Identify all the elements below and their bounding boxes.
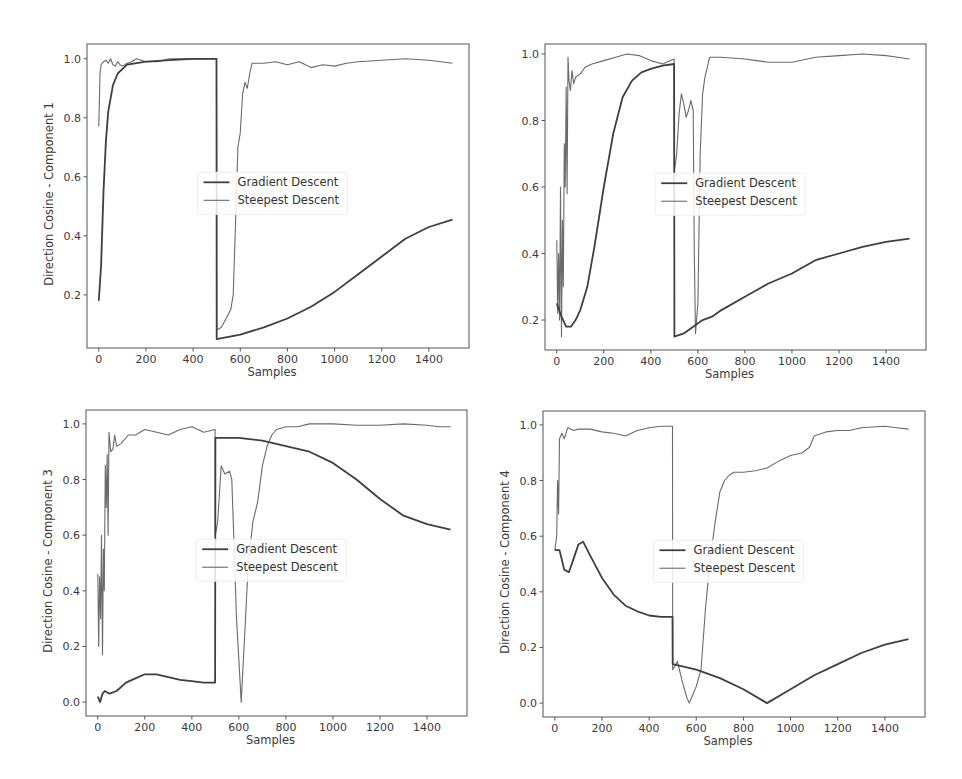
- x-tick-label: 1000: [321, 353, 349, 366]
- y-tick-label: 1.0: [522, 48, 540, 61]
- legend-label: Gradient Descent: [236, 542, 337, 556]
- x-tick-label: 1000: [319, 721, 347, 734]
- x-tick-label: 0: [551, 722, 558, 735]
- y-tick-label: 0.8: [522, 115, 540, 128]
- x-tick-label: 200: [134, 721, 155, 734]
- legend-label: Steepest Descent: [695, 194, 797, 208]
- y-tick-label: 0.6: [64, 171, 82, 184]
- x-axis-label: Samples: [246, 733, 295, 747]
- x-axis-label: Samples: [705, 367, 754, 381]
- x-tick-label: 400: [640, 355, 661, 368]
- x-tick-label: 200: [593, 355, 614, 368]
- y-axis-label: Direction Cosine - Component 3: [41, 469, 55, 652]
- y-tick-label: 1.0: [520, 419, 538, 432]
- x-tick-label: 400: [181, 721, 202, 734]
- x-tick-label: 0: [95, 353, 102, 366]
- legend-label: Steepest Descent: [694, 561, 796, 575]
- legend: Gradient DescentSteepest Descent: [196, 539, 346, 581]
- x-tick-label: 1400: [872, 355, 900, 368]
- y-tick-label: 0.6: [520, 530, 538, 543]
- y-tick-label: 1.0: [64, 53, 82, 66]
- x-tick-label: 1400: [413, 721, 441, 734]
- y-tick-label: 0.2: [520, 641, 538, 654]
- y-tick-label: 0.2: [63, 640, 81, 653]
- x-tick-label: 200: [135, 353, 156, 366]
- x-axis-label: Samples: [247, 365, 296, 379]
- legend: Gradient DescentSteepest Descent: [655, 173, 805, 215]
- x-axis-label: Samples: [703, 734, 752, 748]
- subplot-bottom-right: 02004006008001000120014000.00.20.40.60.8…: [498, 411, 925, 748]
- legend-label: Gradient Descent: [695, 176, 796, 190]
- y-tick-label: 0.8: [64, 112, 82, 125]
- y-tick-label: 0.8: [520, 475, 538, 488]
- x-tick-label: 400: [639, 722, 660, 735]
- y-tick-label: 0.4: [63, 585, 81, 598]
- figure: 02004006008001000120014000.20.40.60.81.0…: [0, 0, 962, 779]
- subplot-top-left: 02004006008001000120014000.20.40.60.81.0…: [42, 44, 469, 379]
- x-tick-label: 0: [94, 721, 101, 734]
- y-tick-label: 0.0: [520, 697, 538, 710]
- legend-label: Steepest Descent: [238, 193, 340, 207]
- y-tick-label: 0.6: [63, 529, 81, 542]
- x-tick-label: 1200: [368, 353, 396, 366]
- y-tick-label: 0.2: [64, 289, 82, 302]
- y-tick-label: 0.8: [63, 474, 81, 487]
- legend: Gradient DescentSteepest Descent: [654, 540, 804, 582]
- legend: Gradient DescentSteepest Descent: [198, 172, 348, 214]
- y-tick-label: 0.4: [522, 248, 540, 261]
- legend-label: Gradient Descent: [238, 175, 339, 189]
- x-tick-label: 1400: [871, 722, 899, 735]
- x-tick-label: 1000: [778, 355, 806, 368]
- x-tick-label: 400: [183, 353, 204, 366]
- subplot-top-right: 02004006008001000120014000.20.40.60.81.0…: [522, 44, 927, 381]
- legend-label: Steepest Descent: [236, 560, 338, 574]
- y-axis-label: Direction Cosine - Component 4: [498, 470, 512, 653]
- x-tick-label: 1200: [366, 721, 394, 734]
- x-tick-label: 1200: [824, 722, 852, 735]
- y-tick-label: 0.2: [522, 314, 540, 327]
- x-tick-label: 200: [591, 722, 612, 735]
- x-tick-label: 0: [553, 355, 560, 368]
- legend-label: Gradient Descent: [694, 543, 795, 557]
- y-tick-label: 0.4: [520, 586, 538, 599]
- x-tick-label: 1200: [825, 355, 853, 368]
- y-tick-label: 0.6: [522, 181, 540, 194]
- y-tick-label: 0.4: [64, 230, 82, 243]
- y-tick-label: 0.0: [63, 696, 81, 709]
- subplot-bottom-left: 02004006008001000120014000.00.20.40.60.8…: [41, 410, 467, 747]
- y-tick-label: 1.0: [63, 418, 81, 431]
- x-tick-label: 1400: [415, 353, 443, 366]
- y-axis-label: Direction Cosine - Component 1: [42, 102, 56, 285]
- x-tick-label: 1000: [777, 722, 805, 735]
